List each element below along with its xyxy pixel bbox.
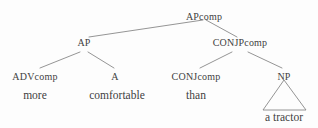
leaf-label-a-tractor: a tractor — [265, 111, 303, 123]
tree-node-conjpcomp: CONJPcomp — [213, 38, 268, 48]
node-label-a: A — [111, 71, 118, 82]
tree-edge-ap-to-advcomp — [40, 52, 80, 68]
tree-leaf-comfortable: comfortable — [89, 90, 145, 102]
tree-edge-conjpcomp-to-np — [248, 52, 282, 68]
tree-node-advcomp: ADVcomp — [12, 72, 57, 82]
syntax-tree-figure: APcomp AP CONJPcomp ADVcomp A CONJcomp N… — [0, 0, 318, 128]
tree-edge-root-to-conjpcomp — [206, 20, 237, 37]
tree-leaf-than: than — [186, 90, 206, 102]
tree-edge-conjpcomp-to-conjcomp — [200, 52, 232, 68]
tree-node-a: A — [111, 72, 118, 82]
np-triangle — [263, 80, 306, 110]
leaf-label-than: than — [186, 89, 206, 101]
tree-edges-layer — [0, 0, 318, 128]
tree-node-apcomp: APcomp — [186, 12, 222, 22]
leaf-label-more: more — [23, 89, 47, 101]
tree-edge-ap-to-a — [88, 52, 114, 68]
node-label-advcomp: ADVcomp — [12, 71, 57, 82]
node-label-apcomp: APcomp — [186, 11, 222, 22]
leaf-label-comfortable: comfortable — [89, 89, 145, 101]
node-label-conjcomp: CONJcomp — [172, 71, 221, 82]
tree-edge-root-to-ap — [89, 20, 203, 37]
tree-node-ap: AP — [77, 38, 90, 48]
node-label-conjpcomp: CONJPcomp — [213, 37, 268, 48]
tree-leaf-a-tractor: a tractor — [265, 112, 303, 124]
tree-leaf-more: more — [23, 90, 47, 102]
node-label-ap: AP — [77, 37, 90, 48]
node-label-np: NP — [277, 71, 290, 82]
tree-node-np: NP — [277, 72, 290, 82]
tree-node-conjcomp: CONJcomp — [172, 72, 221, 82]
